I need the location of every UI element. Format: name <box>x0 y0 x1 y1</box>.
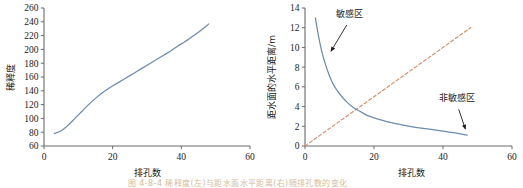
figure-root: 6080100120140160180200220240260 0204060 … <box>0 0 523 188</box>
right-annotations: 敏感区非敏感区 <box>331 8 475 129</box>
left-y-tick-labels: 6080100120140160180200220240260 <box>24 3 39 151</box>
x-tick-label: 20 <box>369 152 379 162</box>
right-y-axis-title: 距水面的水平距离/m <box>266 35 277 119</box>
right-series-line <box>315 18 467 135</box>
x-tick-label: 20 <box>108 152 118 162</box>
left-axis-lines <box>44 8 250 146</box>
x-tick-label: 0 <box>42 152 47 162</box>
chart-panel-right: 02468101214 0204060 敏感区非敏感区 距水面的水平距离/m 排… <box>261 0 523 188</box>
y-tick-label: 180 <box>24 59 39 69</box>
y-tick-label: 10 <box>290 43 300 53</box>
right-chart-svg: 02468101214 0204060 敏感区非敏感区 距水面的水平距离/m 排… <box>261 0 523 188</box>
y-tick-label: 120 <box>24 100 39 110</box>
x-tick-label: 0 <box>303 152 308 162</box>
right-x-tick-labels: 0204060 <box>303 152 517 162</box>
y-tick-label: 14 <box>290 3 300 13</box>
right-axis-lines <box>305 8 512 146</box>
y-tick-label: 12 <box>290 23 300 33</box>
left-y-axis-title: 稀释度 <box>5 64 16 91</box>
y-tick-label: 260 <box>24 3 39 13</box>
x-tick-label: 40 <box>438 152 448 162</box>
y-tick-label: 140 <box>24 86 39 96</box>
non-sensitive-zone-arrow <box>459 109 466 129</box>
figure-caption: 图 4-8-4 稀释度(左)与距水面水平距离(右)随排孔数的变化 <box>128 177 428 188</box>
non-sensitive-zone-label: 非敏感区 <box>439 92 475 103</box>
left-series-line <box>54 24 209 134</box>
y-tick-label: 2 <box>295 122 300 132</box>
right-reference-dashed-line <box>305 28 471 146</box>
right-y-tick-labels: 02468101214 <box>290 3 300 151</box>
y-tick-label: 60 <box>29 141 39 151</box>
y-tick-label: 200 <box>24 45 39 55</box>
chart-panel-left: 6080100120140160180200220240260 0204060 … <box>0 0 261 188</box>
y-tick-label: 160 <box>24 72 39 82</box>
y-tick-label: 4 <box>295 102 300 112</box>
left-x-tick-labels: 0204060 <box>42 152 255 162</box>
sensitive-zone-arrow <box>331 25 347 51</box>
x-tick-label: 60 <box>245 152 255 162</box>
y-tick-label: 0 <box>295 141 300 151</box>
x-tick-label: 40 <box>177 152 187 162</box>
y-tick-label: 240 <box>24 17 39 27</box>
y-tick-label: 80 <box>29 128 39 138</box>
sensitive-zone-label: 敏感区 <box>336 8 363 19</box>
y-tick-label: 6 <box>295 82 300 92</box>
left-chart-svg: 6080100120140160180200220240260 0204060 … <box>0 0 261 188</box>
y-tick-label: 8 <box>295 63 300 73</box>
x-tick-label: 60 <box>507 152 517 162</box>
y-tick-label: 220 <box>24 31 39 41</box>
y-tick-label: 100 <box>24 114 39 124</box>
